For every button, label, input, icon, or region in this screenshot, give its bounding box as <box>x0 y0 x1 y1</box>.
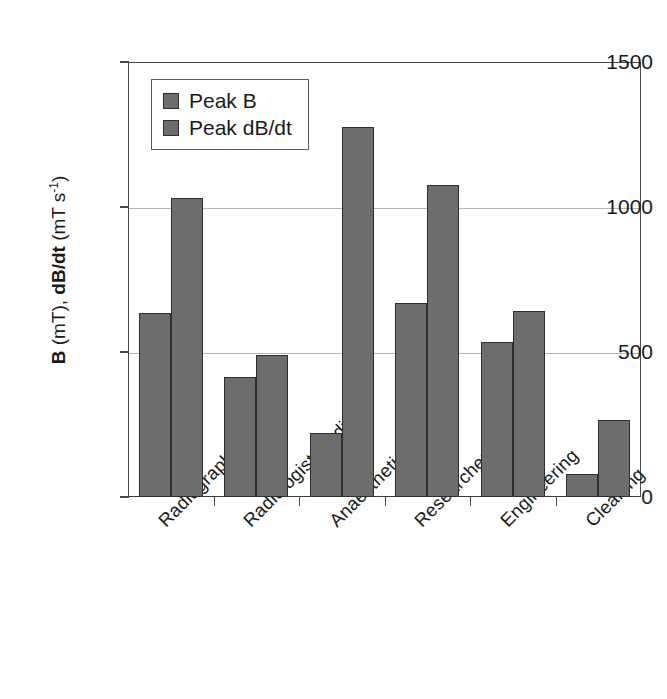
bar-peak-b <box>566 474 598 497</box>
x-tick-mark <box>385 497 386 506</box>
bar-peak-b <box>395 303 427 497</box>
bar-peak-b <box>224 377 256 497</box>
y-axis-title: B (mT), dB/dt (mT s-1) <box>47 140 77 400</box>
bar-peak-b <box>481 342 513 497</box>
bar-peak-dbdt <box>171 198 203 497</box>
legend-label: Peak B <box>189 90 257 111</box>
legend-label: Peak dB/dt <box>189 117 292 138</box>
x-tick-mark <box>299 497 300 506</box>
bar-peak-dbdt <box>513 311 545 497</box>
y-axis-title-paren: ) <box>48 176 69 182</box>
y-axis-title-dbdt: dB/dt <box>48 246 69 295</box>
bar-peak-dbdt <box>427 185 459 497</box>
y-axis-title-exponent: -1 <box>47 182 61 193</box>
y-axis-title-unit1: (mT), <box>48 295 69 351</box>
y-axis-title-unit2: (mT s <box>48 193 69 246</box>
bar-peak-dbdt <box>256 355 288 497</box>
bar-peak-b <box>139 313 171 497</box>
bar-peak-dbdt <box>342 127 374 497</box>
bar-chart: B (mT), dB/dt (mT s-1) 050010001500Radio… <box>0 0 667 699</box>
x-tick-mark <box>556 497 557 506</box>
bar-peak-dbdt <box>598 420 630 497</box>
legend-swatch-icon <box>163 93 179 109</box>
legend-item: Peak B <box>163 87 292 114</box>
chart-legend: Peak BPeak dB/dt <box>151 79 309 150</box>
legend-item: Peak dB/dt <box>163 114 292 141</box>
y-axis-title-b: B <box>48 351 69 365</box>
legend-swatch-icon <box>163 120 179 136</box>
x-tick-mark <box>470 497 471 506</box>
bar-peak-b <box>310 433 342 497</box>
x-tick-mark <box>214 497 215 506</box>
